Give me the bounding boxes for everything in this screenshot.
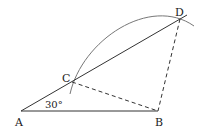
label-d: D: [175, 6, 184, 19]
arc-cd: [70, 16, 194, 94]
angle-label: 30°: [45, 99, 63, 110]
label-a: A: [14, 116, 24, 129]
label-c: C: [62, 72, 70, 85]
segment-cb-dashed: [72, 82, 158, 111]
geometry-diagram: A B C D 30°: [0, 0, 201, 132]
segment-db-dashed: [158, 19, 180, 111]
label-b: B: [155, 116, 163, 129]
segment-ad: [21, 15, 187, 111]
